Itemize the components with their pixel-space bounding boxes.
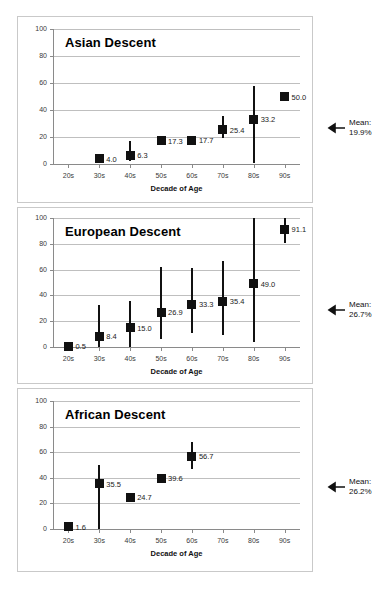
x-tick-mark bbox=[99, 529, 100, 533]
x-tick-mark bbox=[99, 347, 100, 351]
panel-inner: 02040608010020s30s40s50s60s70s80s90sDeca… bbox=[18, 17, 312, 202]
data-point-label: 33.3 bbox=[199, 300, 214, 309]
y-tick-label: 40 bbox=[20, 291, 47, 299]
data-point-marker bbox=[157, 474, 166, 483]
figure-root: 02040608010020s30s40s50s60s70s80s90sDeca… bbox=[0, 0, 389, 595]
mean-label: Mean: 26.7% bbox=[349, 300, 372, 319]
x-axis-title: Decade of Age bbox=[53, 367, 300, 376]
data-point-label: 39.6 bbox=[168, 474, 183, 483]
x-tick-mark bbox=[254, 347, 255, 351]
x-tick-mark bbox=[130, 347, 131, 351]
x-tick-mark bbox=[161, 164, 162, 168]
y-tick-label: 0 bbox=[20, 160, 47, 168]
gridline bbox=[53, 452, 300, 453]
mean-arrow-annotation: Mean: 26.2% bbox=[322, 477, 372, 496]
chart-panel-2: 02040608010020s30s40s50s60s70s80s90sDeca… bbox=[17, 207, 313, 384]
gridline bbox=[53, 110, 300, 111]
y-tick-label: 20 bbox=[20, 133, 47, 141]
data-point-label: 4.0 bbox=[106, 155, 116, 164]
data-point-marker bbox=[187, 300, 196, 309]
data-point-marker bbox=[95, 479, 104, 488]
y-axis-line bbox=[53, 29, 54, 164]
panel-inner: 02040608010020s30s40s50s60s70s80s90sDeca… bbox=[18, 389, 312, 571]
x-tick-mark bbox=[130, 529, 131, 533]
data-point-label: 1.6 bbox=[75, 523, 85, 532]
x-tick-mark bbox=[223, 347, 224, 351]
y-tick-label: 80 bbox=[20, 240, 47, 248]
data-point-marker bbox=[157, 308, 166, 317]
left-arrow-icon bbox=[322, 122, 346, 134]
y-tick-label: 40 bbox=[20, 474, 47, 482]
data-point-label: 35.4 bbox=[230, 297, 245, 306]
y-tick-mark bbox=[50, 164, 53, 165]
y-tick-label: 100 bbox=[20, 25, 47, 33]
x-tick-mark bbox=[192, 347, 193, 351]
y-tick-label: 20 bbox=[20, 499, 47, 507]
data-point-marker bbox=[218, 297, 227, 306]
x-tick-mark bbox=[130, 164, 131, 168]
x-tick-mark bbox=[99, 164, 100, 168]
chart-panel-3: 02040608010020s30s40s50s60s70s80s90sDeca… bbox=[17, 388, 313, 572]
x-tick-mark bbox=[161, 347, 162, 351]
gridline bbox=[53, 56, 300, 57]
mean-arrow-annotation: Mean: 19.9% bbox=[322, 118, 372, 137]
x-tick-mark bbox=[254, 529, 255, 533]
x-tick-mark bbox=[192, 529, 193, 533]
y-tick-mark bbox=[50, 347, 53, 348]
x-axis-line bbox=[53, 529, 300, 530]
x-tick-label: 90s bbox=[265, 171, 305, 180]
gridline bbox=[53, 218, 300, 219]
x-tick-label: 90s bbox=[265, 354, 305, 363]
mean-arrow-annotation: Mean: 26.7% bbox=[322, 300, 372, 319]
error-bar bbox=[253, 86, 255, 164]
data-point-label: 50.0 bbox=[292, 93, 307, 102]
data-point-marker bbox=[95, 154, 104, 163]
x-tick-mark bbox=[285, 164, 286, 168]
data-point-label: 35.5 bbox=[106, 480, 121, 489]
gridline bbox=[53, 401, 300, 402]
data-point-marker bbox=[126, 151, 135, 160]
panel-title: African Descent bbox=[65, 407, 165, 422]
y-tick-label: 80 bbox=[20, 52, 47, 60]
x-tick-mark bbox=[254, 164, 255, 168]
data-point-label: 17.3 bbox=[168, 137, 183, 146]
mean-label: Mean: 26.2% bbox=[349, 477, 372, 496]
panel-title: Asian Descent bbox=[65, 35, 156, 50]
data-point-label: 25.4 bbox=[230, 126, 245, 135]
data-point-marker bbox=[64, 522, 73, 531]
data-point-label: 6.3 bbox=[137, 151, 147, 160]
data-point-marker bbox=[126, 323, 135, 332]
data-point-label: 91.1 bbox=[292, 225, 307, 234]
y-tick-label: 0 bbox=[20, 343, 47, 351]
data-point-marker bbox=[187, 136, 196, 145]
data-point-marker bbox=[218, 125, 227, 134]
panel-inner: 02040608010020s30s40s50s60s70s80s90sDeca… bbox=[18, 208, 312, 383]
x-axis-line bbox=[53, 347, 300, 348]
data-point-label: 24.7 bbox=[137, 493, 152, 502]
data-point-marker bbox=[95, 332, 104, 341]
error-bar bbox=[98, 305, 100, 347]
y-tick-mark bbox=[50, 529, 53, 530]
data-point-label: 0.5 bbox=[75, 342, 85, 351]
y-axis-line bbox=[53, 218, 54, 347]
panel-title: European Descent bbox=[65, 224, 181, 239]
data-point-label: 33.2 bbox=[261, 115, 276, 124]
y-axis-line bbox=[53, 401, 54, 529]
x-axis-title: Decade of Age bbox=[53, 184, 300, 193]
data-point-label: 49.0 bbox=[261, 280, 276, 289]
mean-label: Mean: 19.9% bbox=[349, 118, 372, 137]
x-tick-mark bbox=[192, 164, 193, 168]
data-point-marker bbox=[64, 342, 73, 351]
y-tick-label: 100 bbox=[20, 397, 47, 405]
data-point-marker bbox=[249, 115, 258, 124]
data-point-label: 26.9 bbox=[168, 308, 183, 317]
x-tick-mark bbox=[161, 529, 162, 533]
gridline bbox=[53, 244, 300, 245]
y-tick-label: 100 bbox=[20, 214, 47, 222]
x-tick-mark bbox=[223, 164, 224, 168]
y-tick-label: 60 bbox=[20, 266, 47, 274]
y-tick-label: 20 bbox=[20, 317, 47, 325]
data-point-label: 56.7 bbox=[199, 452, 214, 461]
y-tick-label: 80 bbox=[20, 423, 47, 431]
x-tick-mark bbox=[285, 529, 286, 533]
